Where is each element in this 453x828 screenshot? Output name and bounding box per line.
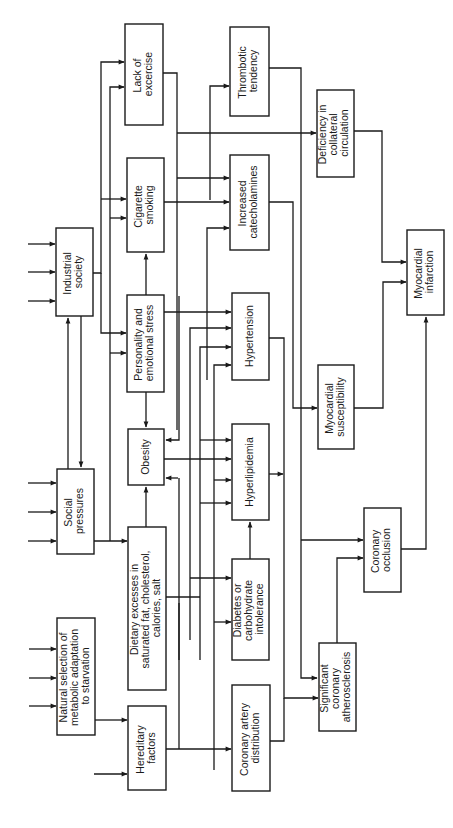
node-myocardial-infarction: Myocardial infarction xyxy=(407,230,444,315)
chd-causation-diagram: Natural selection of metabolic adaptatio… xyxy=(0,0,453,828)
svg-text:Hyperlipidemia: Hyperlipidemia xyxy=(243,437,255,507)
node-social-pressures: Social pressures xyxy=(57,469,94,554)
svg-text:Coronary occlusion: Coronary occlusion xyxy=(369,527,392,573)
svg-text:Hypertension: Hypertension xyxy=(243,305,255,367)
node-hereditary-factors: Hereditary factors xyxy=(128,706,166,790)
svg-text:Diabetes or carbohydrate: Diabetes or carbohydrate intolerance xyxy=(231,577,265,641)
node-cigarette-smoking: Cigarette smoking xyxy=(127,158,164,252)
svg-text:Deficiency in collateral: Deficiency in collateral circulation xyxy=(316,102,350,164)
node-obesity: Obesity xyxy=(128,429,164,485)
svg-text:Industrial society: Industrial society xyxy=(61,249,84,295)
svg-text:Cigarette smoking: Cigarette smoking xyxy=(132,182,155,228)
svg-text:Myocardial infarction: Myocardial infarction xyxy=(412,245,435,299)
node-industrial-society: Industrial society xyxy=(56,228,93,316)
node-hypertension: Hypertension xyxy=(232,293,269,380)
node-lack-of-exercise: Lack of excercise xyxy=(125,24,163,125)
node-coronary-occlusion: Coronary occlusion xyxy=(364,508,401,592)
node-thrombotic-tendency: Thrombotic tendency xyxy=(230,27,269,116)
svg-text:Personality and emotiona: Personality and emotional stress xyxy=(132,305,155,381)
node-natural-selection: Natural selection of metabolic adaptatio… xyxy=(57,618,95,735)
node-collateral-deficiency: Deficiency in collateral circulation xyxy=(316,90,354,177)
node-dietary-excesses: Dietary excesses in saturated fat, chole… xyxy=(128,527,166,690)
node-personality-stress: Personality and emotional stress xyxy=(127,295,164,392)
svg-text:Obesity: Obesity xyxy=(139,438,151,474)
node-myocardial-susceptibility: Myocardial susceptibility xyxy=(318,365,354,449)
node-hyperlipidemia: Hyperlipidemia xyxy=(232,424,269,520)
node-coronary-artery-distribution: Coronary artery distribution xyxy=(232,685,270,791)
node-diabetes: Diabetes or carbohydrate intolerance xyxy=(231,559,269,660)
node-increased-catecholamines: Increased catecholamines xyxy=(230,155,269,250)
svg-text:Lack of excercise: Lack of excercise xyxy=(131,52,154,97)
svg-text:Myocardial susceptibilit: Myocardial susceptibility xyxy=(323,376,346,436)
svg-text:Thrombotic tendency: Thrombotic tendency xyxy=(236,43,259,98)
node-significant-coronary-atherosclerosis: Significant coronary atherosclerosis xyxy=(318,643,356,731)
